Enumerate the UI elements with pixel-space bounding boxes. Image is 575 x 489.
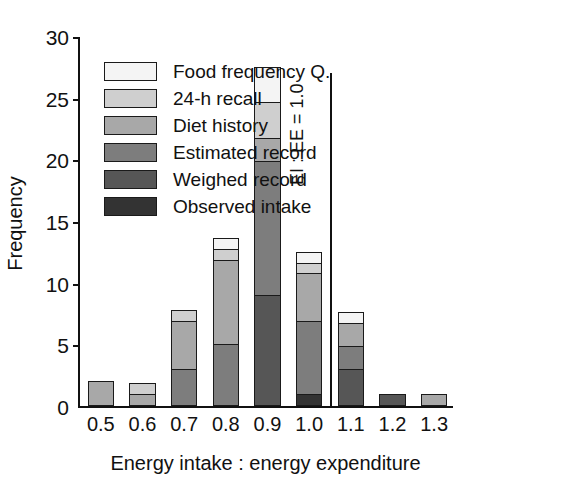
y-axis-tick-mark bbox=[73, 222, 80, 224]
x-axis-tick-label: 0.6 bbox=[129, 413, 157, 436]
bar-segment bbox=[171, 321, 198, 370]
legend-item: Weighed record bbox=[104, 166, 330, 193]
y-axis-tick-label: 0 bbox=[57, 396, 80, 420]
y-axis-tick-mark bbox=[73, 37, 80, 39]
bar-segment bbox=[338, 323, 365, 348]
bar-segment bbox=[213, 260, 240, 346]
y-axis-tick-mark bbox=[73, 345, 80, 347]
bar-stack bbox=[88, 381, 115, 406]
legend-item: Diet history bbox=[104, 112, 330, 139]
bar-stack bbox=[421, 394, 448, 406]
chart-legend: Food frequency Q.24-h recallDiet history… bbox=[104, 58, 330, 220]
legend-swatch bbox=[104, 62, 157, 81]
legend-swatch bbox=[104, 197, 157, 216]
legend-label: Diet history bbox=[173, 115, 268, 137]
bar-segment bbox=[213, 344, 240, 406]
legend-swatch bbox=[104, 89, 157, 108]
legend-item: 24-h recall bbox=[104, 85, 330, 112]
bar-segment bbox=[88, 381, 115, 406]
x-axis-tick-label: 1.1 bbox=[337, 413, 365, 436]
legend-label: Weighed record bbox=[173, 169, 307, 191]
bar-stack bbox=[129, 381, 156, 406]
legend-swatch bbox=[104, 116, 157, 135]
x-axis-label: Energy intake : energy expenditure bbox=[78, 452, 453, 475]
legend-item: Food frequency Q. bbox=[104, 58, 330, 85]
x-axis-tick-label: 0.8 bbox=[212, 413, 240, 436]
bar-segment bbox=[338, 369, 365, 406]
bar-segment bbox=[338, 346, 365, 371]
legend-label: Observed intake bbox=[173, 196, 311, 218]
x-axis-tick-label: 1.3 bbox=[420, 413, 448, 436]
legend-label: 24-h recall bbox=[173, 88, 262, 110]
x-axis-tick-label: 0.7 bbox=[170, 413, 198, 436]
y-axis-tick-mark bbox=[73, 284, 80, 286]
x-axis-tick-label: 0.5 bbox=[87, 413, 115, 436]
bar-stack bbox=[213, 233, 240, 406]
x-axis-tick-label: 1.2 bbox=[379, 413, 407, 436]
bar-segment bbox=[296, 273, 323, 322]
y-axis-label: Frequency bbox=[2, 38, 28, 408]
bar-stack bbox=[171, 307, 198, 406]
bar-segment bbox=[254, 295, 281, 406]
bar-stack bbox=[338, 307, 365, 406]
bar-segment bbox=[129, 394, 156, 406]
legend-label: Food frequency Q. bbox=[173, 61, 330, 83]
bar-segment bbox=[171, 369, 198, 406]
legend-label: Estimated record bbox=[173, 142, 317, 164]
y-axis-tick-mark bbox=[73, 99, 80, 101]
y-axis-tick-mark bbox=[73, 160, 80, 162]
legend-item: Observed intake bbox=[104, 193, 330, 220]
bar-segment bbox=[296, 394, 323, 406]
x-axis-tick-label: 1.0 bbox=[295, 413, 323, 436]
legend-swatch bbox=[104, 143, 157, 162]
bar-segment bbox=[421, 394, 448, 406]
bar-stack bbox=[296, 246, 323, 406]
bar-stack bbox=[379, 394, 406, 406]
legend-swatch bbox=[104, 170, 157, 189]
bar-segment bbox=[296, 321, 323, 395]
chart-figure: Frequency 051015202530 0.50.60.70.80.91.… bbox=[0, 0, 575, 489]
bar-segment bbox=[379, 394, 406, 406]
x-axis-tick-label: 0.9 bbox=[254, 413, 282, 436]
legend-item: Estimated record bbox=[104, 139, 330, 166]
plot-area: 051015202530 0.50.60.70.80.91.01.11.21.3… bbox=[78, 38, 453, 408]
